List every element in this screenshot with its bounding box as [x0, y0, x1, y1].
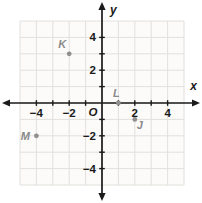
y-tick-label: 4 [90, 31, 97, 43]
point-label-M: M [21, 130, 31, 142]
graph-figure: −4−224−4−224xyOKLJM [0, 0, 202, 203]
data-point-M [34, 133, 39, 138]
x-axis-label: x [189, 79, 198, 93]
x-tick-label: 4 [164, 107, 171, 119]
point-label-J: J [137, 119, 144, 131]
y-tick-label: 2 [90, 64, 96, 76]
x-tick-label: −4 [30, 107, 44, 119]
coordinate-plane: −4−224−4−224xyOKLJM [0, 0, 202, 203]
y-axis-down-arrow-icon [98, 193, 105, 201]
y-axis-up-arrow-icon [98, 2, 105, 10]
point-label-L: L [113, 87, 120, 99]
y-tick-label: −2 [83, 130, 96, 142]
x-tick-label: −2 [63, 107, 76, 119]
x-axis-right-arrow-icon [192, 99, 200, 106]
origin-label: O [89, 106, 98, 118]
x-axis-left-arrow-icon [2, 99, 10, 106]
data-point-K [67, 51, 72, 56]
y-axis-label: y [109, 3, 118, 17]
data-point-L [116, 101, 121, 106]
point-label-K: K [58, 38, 67, 50]
y-tick-label: −4 [83, 163, 97, 175]
